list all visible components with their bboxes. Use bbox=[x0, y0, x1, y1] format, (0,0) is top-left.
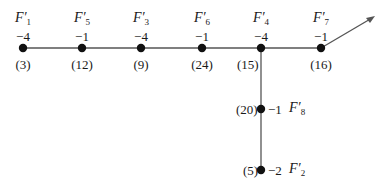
self-intersection-F5: −1 bbox=[75, 30, 89, 43]
self-intersection-F2: −2 bbox=[268, 164, 282, 177]
self-intersection-F1: −4 bbox=[16, 30, 30, 43]
node-F7 bbox=[317, 44, 325, 52]
node-name-F4: F′4 bbox=[253, 11, 269, 27]
multiplicity-F4: (15) bbox=[237, 58, 259, 71]
subscript: 7 bbox=[325, 17, 330, 27]
multiplicity-F7: (16) bbox=[310, 58, 332, 71]
subscript: 6 bbox=[206, 17, 211, 27]
self-intersection-F4: −4 bbox=[254, 30, 268, 43]
self-intersection-F6: −1 bbox=[195, 30, 209, 43]
name-letter: F bbox=[74, 10, 83, 25]
node-name-F5: F′5 bbox=[74, 11, 90, 27]
node-F4 bbox=[257, 44, 265, 52]
node-name-F2: F′2 bbox=[289, 162, 305, 178]
node-name-F3: F′3 bbox=[133, 11, 149, 27]
node-F6 bbox=[198, 44, 206, 52]
multiplicity-F8: (20) bbox=[236, 103, 258, 116]
node-F1 bbox=[19, 44, 27, 52]
name-letter: F bbox=[133, 10, 142, 25]
node-name-F8: F′8 bbox=[289, 101, 305, 117]
node-name-F7: F′7 bbox=[313, 11, 329, 27]
name-letter: F bbox=[289, 100, 298, 115]
name-letter: F bbox=[313, 10, 322, 25]
multiplicity-F1: (3) bbox=[15, 58, 30, 71]
diagram-canvas bbox=[0, 0, 388, 187]
name-letter: F bbox=[253, 10, 262, 25]
subscript: 2 bbox=[301, 168, 306, 178]
subscript: 3 bbox=[145, 17, 150, 27]
arrow-head-icon bbox=[366, 16, 375, 23]
node-F5 bbox=[78, 44, 86, 52]
subscript: 1 bbox=[27, 17, 32, 27]
node-name-F6: F′6 bbox=[194, 11, 210, 27]
node-F8 bbox=[257, 105, 265, 113]
multiplicity-F5: (12) bbox=[71, 58, 93, 71]
multiplicity-F2: (5) bbox=[243, 164, 258, 177]
name-letter: F bbox=[289, 161, 298, 176]
node-F3 bbox=[137, 44, 145, 52]
node-name-F1: F′1 bbox=[15, 11, 31, 27]
subscript: 8 bbox=[301, 107, 306, 117]
name-letter: F bbox=[15, 10, 24, 25]
self-intersection-F8: −1 bbox=[268, 103, 282, 116]
subscript: 4 bbox=[265, 17, 270, 27]
name-letter: F bbox=[194, 10, 203, 25]
multiplicity-F6: (24) bbox=[191, 58, 213, 71]
subscript: 5 bbox=[86, 17, 91, 27]
self-intersection-F7: −1 bbox=[314, 30, 328, 43]
multiplicity-F3: (9) bbox=[133, 58, 148, 71]
self-intersection-F3: −4 bbox=[134, 30, 148, 43]
